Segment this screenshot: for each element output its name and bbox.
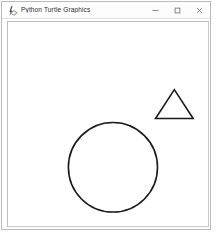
turtle-canvas-frame bbox=[7, 21, 209, 227]
close-button[interactable] bbox=[188, 2, 210, 18]
turtle-drawing-canvas[interactable] bbox=[8, 22, 208, 226]
minimize-button[interactable] bbox=[144, 2, 166, 18]
page-title: Python Turtle Graphics bbox=[21, 7, 144, 14]
window-title-bar[interactable]: Python Turtle Graphics bbox=[2, 2, 210, 19]
maximize-icon bbox=[172, 5, 183, 16]
window-client-area bbox=[2, 19, 210, 229]
circle-shape bbox=[68, 123, 157, 213]
maximize-button[interactable] bbox=[166, 2, 188, 18]
turtle-graphics-window: Python Turtle Graphics bbox=[1, 1, 211, 230]
minimize-icon bbox=[150, 5, 161, 16]
python-turtle-icon bbox=[6, 4, 19, 17]
close-icon bbox=[194, 5, 205, 16]
triangle-shape bbox=[156, 90, 194, 119]
